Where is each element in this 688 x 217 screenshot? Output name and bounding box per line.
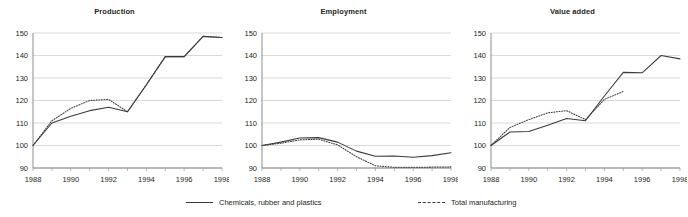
plot-area: 9010011012013014015019881990199219941996… xyxy=(229,0,458,190)
chart-legend: Chemicals, rubber and plastics Total man… xyxy=(0,192,688,217)
x-axis-tick-label: 1992 xyxy=(329,175,346,184)
y-axis-tick-label: 140 xyxy=(473,51,486,60)
y-axis-tick-label: 110 xyxy=(16,119,28,128)
series-line-chemicals xyxy=(262,138,451,158)
y-axis-tick-label: 150 xyxy=(244,29,257,38)
plot-area: 9010011012013014015019881990199219941996… xyxy=(0,0,229,190)
chart-panel-production: Production 90100110120130140150198819901… xyxy=(0,0,229,190)
y-axis-tick-label: 100 xyxy=(244,141,257,150)
x-axis-tick-label: 1992 xyxy=(558,175,575,184)
x-axis-tick-label: 1990 xyxy=(62,175,79,184)
series-line-chemicals xyxy=(33,36,222,145)
y-axis-tick-label: 140 xyxy=(244,51,257,60)
y-axis-tick-label: 90 xyxy=(478,164,486,173)
y-axis-tick-label: 150 xyxy=(473,29,486,38)
y-axis-tick-label: 130 xyxy=(244,74,257,83)
series-line-total-manufacturing xyxy=(491,92,623,146)
x-axis-tick-label: 1994 xyxy=(367,175,384,184)
legend-dashed-line-icon xyxy=(418,202,445,203)
y-axis-tick-label: 120 xyxy=(244,96,257,105)
y-axis-tick-label: 120 xyxy=(473,96,486,105)
x-axis-tick-label: 1990 xyxy=(291,175,308,184)
series-line-total-manufacturing xyxy=(262,139,451,167)
legend-item-label: Total manufacturing xyxy=(451,198,516,207)
x-axis-tick-label: 1994 xyxy=(138,175,155,184)
x-axis-tick-label: 1998 xyxy=(443,175,458,184)
y-axis-tick-label: 110 xyxy=(245,119,257,128)
legend-item-chemicals: Chemicals, rubber and plastics xyxy=(186,192,322,212)
y-axis-tick-label: 90 xyxy=(249,164,257,173)
legend-solid-line-icon xyxy=(186,202,213,203)
y-axis-tick-label: 120 xyxy=(15,96,28,105)
y-axis-tick-label: 100 xyxy=(15,141,28,150)
x-axis-tick-label: 1996 xyxy=(176,175,193,184)
chart-panel-value-added: Value added 9010011012013014015019881990… xyxy=(458,0,687,190)
x-axis-tick-label: 1990 xyxy=(520,175,537,184)
y-axis-tick-label: 90 xyxy=(20,164,28,173)
x-axis-tick-label: 1998 xyxy=(672,175,687,184)
x-axis-tick-label: 1988 xyxy=(483,175,500,184)
x-axis-tick-label: 1992 xyxy=(100,175,117,184)
y-axis-tick-label: 100 xyxy=(473,141,486,150)
x-axis-tick-label: 1988 xyxy=(25,175,42,184)
multi-panel-line-chart-figure: Production 90100110120130140150198819901… xyxy=(0,0,688,217)
y-axis-tick-label: 110 xyxy=(474,119,486,128)
y-axis-tick-label: 140 xyxy=(15,51,28,60)
y-axis-tick-label: 150 xyxy=(15,29,28,38)
x-axis-tick-label: 1994 xyxy=(596,175,613,184)
plot-area: 9010011012013014015019881990199219941996… xyxy=(458,0,687,190)
legend-item-label: Chemicals, rubber and plastics xyxy=(219,198,322,207)
y-axis-tick-label: 130 xyxy=(473,74,486,83)
y-axis-tick-label: 130 xyxy=(15,74,28,83)
x-axis-tick-label: 1996 xyxy=(405,175,422,184)
x-axis-tick-label: 1988 xyxy=(254,175,271,184)
x-axis-tick-label: 1998 xyxy=(214,175,229,184)
chart-panel-employment: Employment 90100110120130140150198819901… xyxy=(229,0,458,190)
series-line-total-manufacturing xyxy=(33,36,222,145)
x-axis-tick-label: 1996 xyxy=(634,175,651,184)
legend-item-total-manufacturing: Total manufacturing xyxy=(418,192,516,212)
